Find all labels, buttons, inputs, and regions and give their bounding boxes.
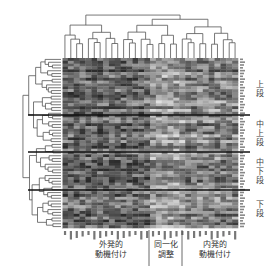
group-label-identified: 同一化 調整 [150, 240, 182, 260]
segment-label-lower: 下 段 [255, 200, 265, 218]
heatmap-svg [0, 0, 275, 271]
clustered-heatmap-figure: 外発的 動機付け 同一化 調整 内発的 動機付け 上 段 中 上 段 中 下 段… [0, 0, 275, 271]
segment-label-mid-upper: 中 上 段 [255, 120, 265, 147]
column-tick-labels [64, 231, 236, 240]
row-tick-labels [240, 59, 245, 228]
heatmap-cells [61, 58, 238, 228]
row-dendrogram [23, 59, 62, 226]
segment-label-upper: 上 段 [255, 80, 265, 98]
group-label-intrinsic: 内発的 動機付け [190, 240, 240, 260]
group-label-extrinsic: 外発的 動機付け [86, 240, 136, 260]
segment-label-mid-lower: 中 下 段 [255, 158, 265, 185]
column-dendrogram [65, 15, 235, 58]
